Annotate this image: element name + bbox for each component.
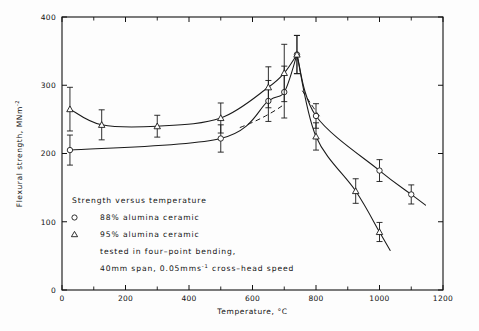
x-axis-title: Temperature, °C bbox=[216, 307, 287, 316]
x-tick-label: 1000 bbox=[369, 294, 389, 303]
legend-note-line-1: tested in four–point bending, bbox=[100, 247, 236, 256]
y-tick-label: 200 bbox=[41, 149, 56, 158]
data-point-marker-triangle bbox=[67, 106, 73, 112]
legend-note-line-2: 40mm span, 0.05mms-1 cross–head speed bbox=[100, 263, 294, 273]
curve-rising-88 bbox=[70, 55, 297, 151]
x-tick-label: 200 bbox=[118, 294, 133, 303]
chart-canvas: 0200400600800100012000100200300400Temper… bbox=[0, 0, 479, 331]
y-tick-label: 400 bbox=[41, 13, 56, 22]
data-point-marker-circle bbox=[218, 136, 223, 141]
x-tick-label: 800 bbox=[308, 294, 323, 303]
y-axis-title: Flexural strength, MNm-2 bbox=[14, 100, 24, 208]
data-point-marker-circle bbox=[377, 168, 382, 173]
curve-falling-95 bbox=[297, 55, 390, 251]
legend-entry-label: 95% alumina ceramic bbox=[100, 230, 200, 239]
x-tick-label: 0 bbox=[59, 294, 64, 303]
y-tick-label: 0 bbox=[51, 286, 56, 295]
y-tick-label: 100 bbox=[41, 218, 56, 227]
legend-marker-circle bbox=[72, 215, 77, 220]
data-point-marker-circle bbox=[67, 147, 72, 152]
x-tick-label: 1200 bbox=[433, 294, 453, 303]
data-point-marker-triangle bbox=[265, 84, 271, 90]
x-tick-label: 600 bbox=[245, 294, 260, 303]
x-tick-label: 400 bbox=[181, 294, 196, 303]
figure-root: 0200400600800100012000100200300400Temper… bbox=[0, 0, 479, 331]
data-point-marker-triangle bbox=[313, 133, 319, 139]
data-point-marker-circle bbox=[313, 113, 318, 118]
curve-rising-95 bbox=[70, 55, 297, 127]
y-tick-label: 300 bbox=[41, 81, 56, 90]
data-point-marker-triangle bbox=[376, 229, 382, 235]
legend-entry-label: 88% alumina ceramic bbox=[100, 213, 200, 222]
data-point-marker-circle bbox=[409, 192, 414, 197]
legend-marker-triangle bbox=[71, 231, 77, 236]
legend-title: Strength versus temperature bbox=[72, 196, 207, 205]
